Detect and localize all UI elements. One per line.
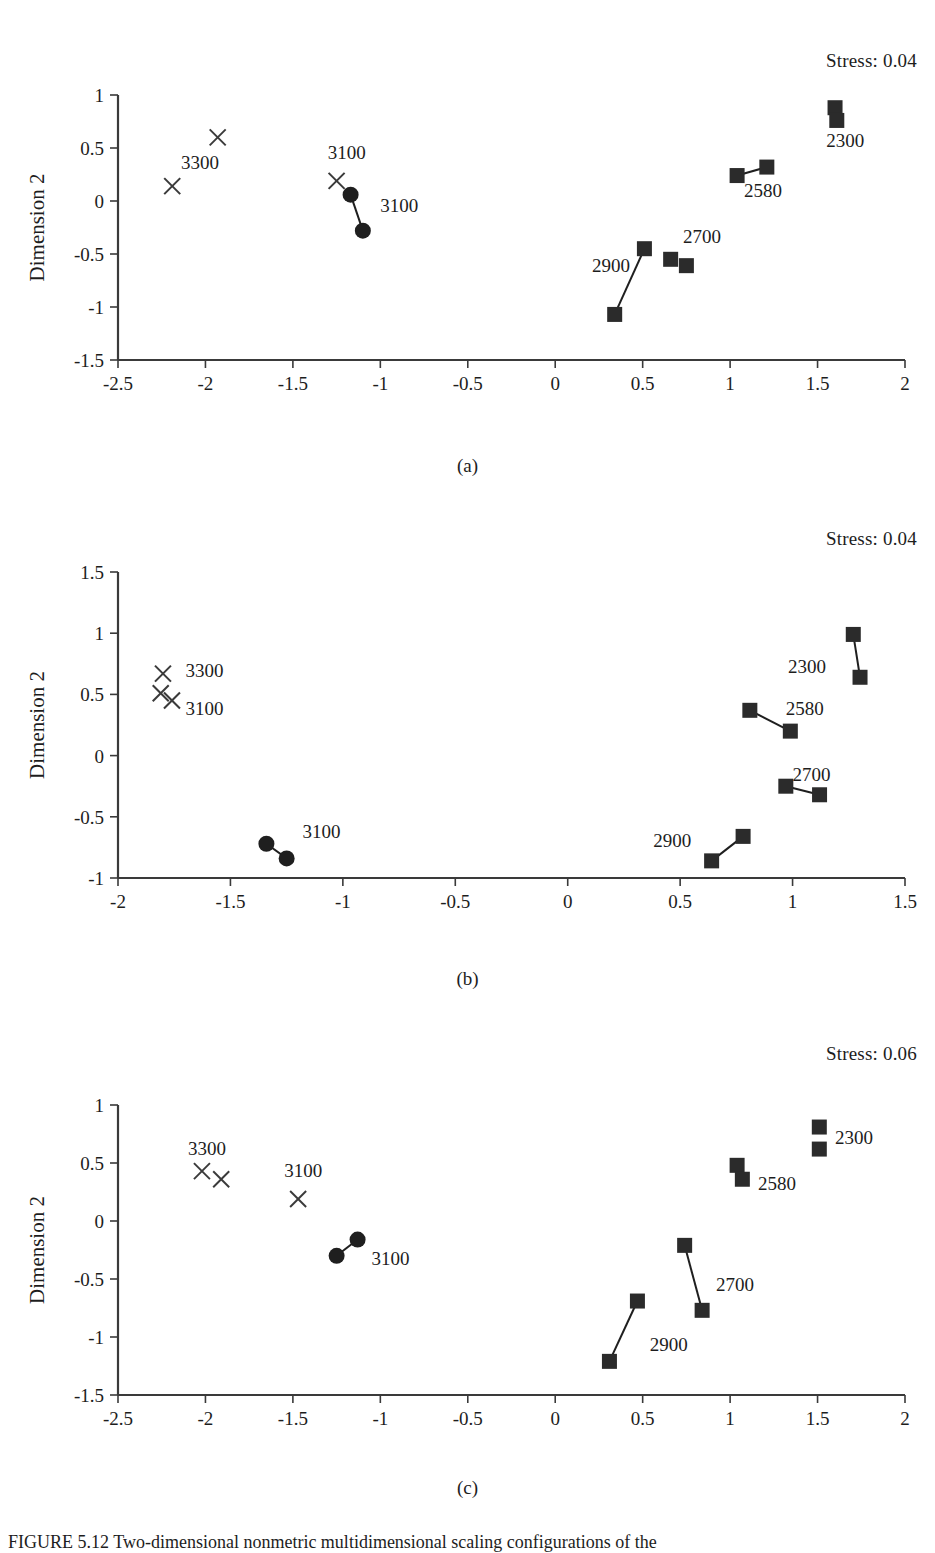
x-tick-label: 0.5: [631, 373, 655, 394]
panel-letter-a: (a): [0, 455, 935, 477]
panel-b: Stress: 0.04 -2-1.5-1-0.500.511.51.510.5…: [0, 500, 935, 1015]
panel-letter-c: (c): [0, 1477, 935, 1499]
data-marker-square: [759, 160, 774, 175]
data-marker-square: [730, 1158, 745, 1173]
y-tick-label: 0: [95, 1211, 105, 1232]
data-marker-cross: [213, 1171, 229, 1187]
y-axis-title: Dimension 2: [25, 671, 49, 779]
x-tick-label: 0: [563, 891, 573, 912]
data-marker-square: [736, 829, 751, 844]
x-tick-label: 0: [550, 373, 560, 394]
series-label: 2300: [826, 130, 864, 151]
x-tick-label: 0.5: [631, 1408, 655, 1429]
x-tick-label: -0.5: [440, 891, 470, 912]
series-label: 2900: [592, 255, 630, 276]
scatter-plot-a: -2.5-2-1.5-1-0.500.511.5210.50-0.5-1-1.5…: [0, 0, 935, 430]
data-marker-circle: [258, 836, 274, 852]
x-tick-label: -2: [110, 891, 126, 912]
series-label: 3300: [181, 152, 219, 173]
x-tick-label: 0: [550, 1408, 560, 1429]
x-tick-label: -1: [372, 1408, 388, 1429]
y-axis-title: Dimension 2: [25, 1196, 49, 1304]
mds-figure: Stress: 0.04 -2.5-2-1.5-1-0.500.511.5210…: [0, 0, 935, 1553]
y-tick-label: -0.5: [74, 1269, 104, 1290]
data-marker-circle: [343, 187, 359, 203]
x-tick-label: -0.5: [453, 373, 483, 394]
data-marker-cross: [164, 693, 180, 709]
data-marker-square: [853, 670, 868, 685]
series-label: 3100: [302, 821, 340, 842]
scatter-plot-c: -2.5-2-1.5-1-0.500.511.5210.50-0.5-1-1.5…: [0, 1015, 935, 1455]
series-label: 2700: [683, 226, 721, 247]
x-tick-label: 1: [725, 373, 735, 394]
data-marker-cross: [290, 1191, 306, 1207]
x-tick-label: -2: [198, 1408, 214, 1429]
series-label: 2580: [744, 180, 782, 201]
data-marker-square: [735, 1172, 750, 1187]
data-marker-square: [812, 787, 827, 802]
data-marker-cross: [210, 129, 226, 145]
data-marker-square: [812, 1142, 827, 1157]
series-label: 3100: [284, 1160, 322, 1181]
series-label: 2580: [786, 698, 824, 719]
y-tick-label: -1: [88, 868, 104, 889]
x-tick-label: 1: [725, 1408, 735, 1429]
data-marker-circle: [355, 223, 371, 239]
y-tick-label: -0.5: [74, 244, 104, 265]
y-tick-label: -1.5: [74, 1385, 104, 1406]
y-tick-label: 0.5: [80, 684, 104, 705]
series-label: 2900: [650, 1334, 688, 1355]
panel-a: Stress: 0.04 -2.5-2-1.5-1-0.500.511.5210…: [0, 0, 935, 500]
data-marker-cross: [329, 173, 345, 189]
data-marker-square: [602, 1354, 617, 1369]
data-marker-square: [778, 779, 793, 794]
figure-caption: FIGURE 5.12 Two-dimensional nonmetric mu…: [8, 1529, 927, 1553]
y-tick-label: 1: [95, 623, 105, 644]
data-marker-square: [742, 703, 757, 718]
series-label: 3300: [185, 660, 223, 681]
series-label: 3100: [380, 195, 418, 216]
x-tick-label: -2: [198, 373, 214, 394]
data-marker-square: [812, 1120, 827, 1135]
data-marker-square: [677, 1238, 692, 1253]
y-tick-label: 1.5: [80, 562, 104, 583]
series-label: 2900: [653, 830, 691, 851]
data-marker-square: [704, 853, 719, 868]
x-tick-label: 0.5: [668, 891, 692, 912]
x-tick-label: 1: [788, 891, 798, 912]
y-tick-label: -1: [88, 297, 104, 318]
data-marker-square: [679, 258, 694, 273]
x-tick-label: -2.5: [103, 373, 133, 394]
y-axis-title: Dimension 2: [25, 174, 49, 282]
data-marker-cross: [194, 1163, 210, 1179]
data-marker-cross: [155, 666, 171, 682]
y-tick-label: 0: [95, 191, 105, 212]
data-marker-square: [663, 252, 678, 267]
data-marker-square: [695, 1303, 710, 1318]
connector-line: [609, 1301, 637, 1361]
x-tick-label: 2: [900, 1408, 910, 1429]
data-marker-square: [730, 168, 745, 183]
data-marker-circle: [329, 1248, 345, 1264]
data-marker-cross: [164, 178, 180, 194]
data-marker-square: [846, 627, 861, 642]
y-tick-label: 0.5: [80, 138, 104, 159]
series-label: 2300: [835, 1127, 873, 1148]
y-tick-label: -1: [88, 1327, 104, 1348]
x-tick-label: -2.5: [103, 1408, 133, 1429]
data-marker-square: [783, 724, 798, 739]
y-tick-label: 0: [95, 746, 105, 767]
scatter-plot-b: -2-1.5-1-0.500.511.51.510.50-0.5-1Dimens…: [0, 500, 935, 948]
y-tick-label: 0.5: [80, 1153, 104, 1174]
x-tick-label: -1.5: [278, 1408, 308, 1429]
series-label: 3100: [185, 698, 223, 719]
x-tick-label: -0.5: [453, 1408, 483, 1429]
data-marker-square: [607, 307, 622, 322]
x-tick-label: -1: [372, 373, 388, 394]
data-marker-circle: [350, 1232, 366, 1248]
x-tick-label: 1.5: [806, 373, 830, 394]
connector-line: [685, 1245, 702, 1310]
series-label: 2580: [758, 1173, 796, 1194]
panel-letter-b: (b): [0, 968, 935, 990]
series-label: 3300: [188, 1138, 226, 1159]
